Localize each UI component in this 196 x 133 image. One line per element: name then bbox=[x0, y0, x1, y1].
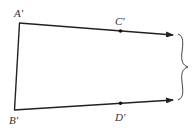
label-a: A′ bbox=[13, 7, 24, 19]
segment-a-b bbox=[15, 23, 20, 110]
label-c: C′ bbox=[115, 15, 125, 27]
point-c bbox=[119, 29, 123, 33]
curly-brace bbox=[178, 34, 188, 100]
ray-a-c bbox=[19, 23, 173, 35]
label-b: B′ bbox=[9, 114, 19, 126]
ray-b-d bbox=[14, 100, 173, 110]
geometry-diagram: A′ B′ C′ D′ bbox=[0, 0, 196, 133]
point-d bbox=[119, 102, 123, 106]
label-d: D′ bbox=[114, 111, 126, 123]
